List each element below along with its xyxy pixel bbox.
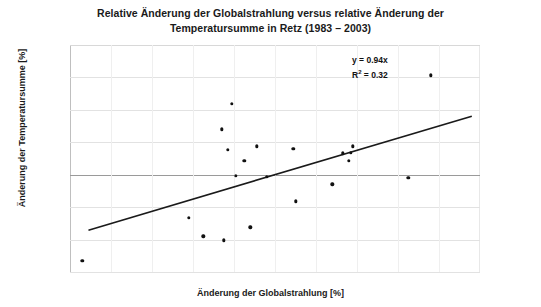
plot-area: 20151050-5-10-15 -10.0-8.0-6.0-4.0-2.00.… [70, 45, 480, 272]
trendline [70, 45, 480, 272]
chart-figure: Relative Änderung der Globalstrahlung ve… [0, 0, 541, 307]
regression-equation: y = 0.94x [352, 54, 388, 66]
chart-title-line-2: Temperatursumme in Retz (1983 – 2003) [0, 21, 541, 36]
chart-title-line-1: Relative Änderung der Globalstrahlung ve… [0, 6, 541, 21]
chart-title: Relative Änderung der Globalstrahlung ve… [0, 6, 541, 36]
x-axis-title: Änderung der Globalstrahlung [%] [0, 288, 541, 298]
y-axis-title: Änderung der Temperatursumme [%] [17, 23, 27, 233]
r-squared: R2 = 0.32 [352, 66, 388, 81]
gridline-y--15 [70, 272, 480, 273]
r-squared-value: = 0.32 [361, 70, 387, 80]
regression-annotation: y = 0.94x R2 = 0.32 [352, 54, 388, 81]
